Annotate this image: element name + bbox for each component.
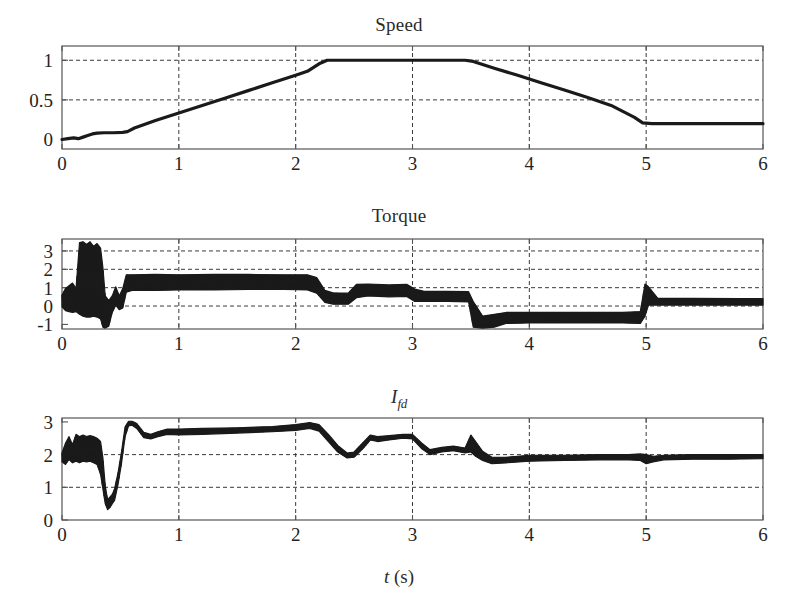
x-tick-label: 0 (57, 524, 67, 545)
x-axis-label-unit: (s) (389, 566, 414, 587)
y-tick-label: 3 (44, 412, 54, 433)
y-tick-label: 2 (44, 259, 54, 280)
x-tick-label: 5 (641, 333, 651, 354)
x-tick-label: 4 (525, 524, 535, 545)
x-tick-label: 2 (291, 333, 301, 354)
panel-ifd-title: Ifd (0, 384, 798, 410)
x-axis-label: t (s) (0, 566, 798, 588)
x-tick-label: 1 (174, 333, 184, 354)
y-tick-label: 3 (44, 241, 54, 262)
y-tick-label: 0 (44, 129, 54, 150)
x-tick-label: 5 (641, 524, 651, 545)
panel-speed-title: Speed (0, 12, 798, 38)
x-tick-label: 0 (57, 333, 67, 354)
panel-ifd: Ifd 01234560123 t (s) (0, 378, 798, 613)
panel-speed-title-text: Speed (375, 14, 422, 35)
x-tick-label: 5 (641, 153, 651, 174)
y-tick-label: 2 (44, 445, 54, 466)
panel-speed: Speed 012345600.51 (0, 0, 798, 200)
figure-container: Speed 012345600.51 Torque 0123456-10123 … (0, 0, 798, 613)
plot-speed: 012345600.51 (0, 38, 798, 198)
x-tick-label: 0 (57, 153, 67, 174)
x-tick-label: 3 (408, 333, 418, 354)
y-tick-label: 0 (44, 296, 54, 317)
y-tick-label: 0.5 (29, 90, 53, 111)
plot-ifd: 01234560123 (0, 410, 798, 560)
x-tick-label: 6 (758, 333, 768, 354)
plot-torque: 0123456-10123 (0, 229, 798, 374)
y-tick-label: 1 (44, 278, 54, 299)
x-tick-label: 3 (408, 524, 418, 545)
x-tick-label: 3 (408, 153, 418, 174)
x-tick-label: 1 (174, 524, 184, 545)
panel-torque-title-text: Torque (372, 205, 427, 226)
y-tick-label: -1 (37, 314, 53, 335)
x-tick-label: 2 (291, 153, 301, 174)
x-tick-label: 4 (525, 333, 535, 354)
x-tick-label: 2 (291, 524, 301, 545)
y-tick-label: 0 (44, 510, 54, 531)
panel-torque-title: Torque (0, 203, 798, 229)
x-tick-label: 6 (758, 524, 768, 545)
panel-torque: Torque 0123456-10123 (0, 193, 798, 378)
panel-ifd-title-subscript: fd (398, 396, 408, 411)
y-tick-label: 1 (44, 477, 54, 498)
x-tick-label: 4 (525, 153, 535, 174)
x-tick-label: 6 (758, 153, 768, 174)
y-tick-label: 1 (44, 50, 54, 71)
x-tick-label: 1 (174, 153, 184, 174)
